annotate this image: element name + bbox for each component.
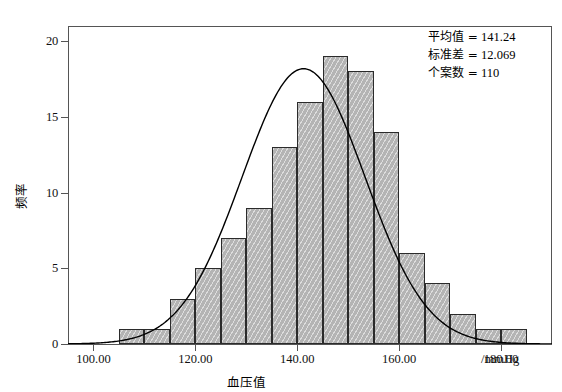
histogram-bar: [195, 268, 220, 344]
x-axis-unit-label: /mmHg: [481, 352, 519, 367]
x-tick-label: 120.00: [178, 352, 212, 367]
stat-mean: 平均值 = 141.24: [428, 28, 515, 46]
stat-mean-value: 141.24: [481, 30, 515, 44]
stat-n: 个案数 = 110: [428, 64, 515, 82]
histogram-bar: [450, 314, 475, 344]
x-tick: [297, 345, 298, 351]
stat-sd-label: 标准差 =: [428, 48, 478, 62]
y-axis-title: 频率: [11, 183, 30, 209]
y-tick-label: 20: [32, 34, 58, 49]
x-tick-label: 160.00: [382, 352, 416, 367]
y-tick: [61, 41, 68, 42]
histogram-bar: [425, 283, 450, 344]
y-tick: [61, 193, 68, 194]
histogram-bar: [170, 299, 195, 344]
stat-mean-label: 平均值 =: [428, 30, 478, 44]
y-tick-label: 5: [32, 261, 58, 276]
histogram-bar: [221, 238, 246, 344]
y-axis-title-wrap: 频率: [14, 0, 34, 392]
x-tick-label: 140.00: [280, 352, 314, 367]
histogram-bar: [246, 208, 271, 344]
histogram-bar: [119, 329, 144, 344]
x-axis-line: [68, 344, 552, 345]
stat-n-label: 个案数 =: [428, 66, 478, 80]
stat-sd: 标准差 = 12.069: [428, 46, 515, 64]
histogram-bar: [476, 329, 501, 344]
y-tick-label: 15: [32, 109, 58, 124]
x-tick: [93, 345, 94, 351]
x-tick-label: 100.00: [76, 352, 110, 367]
histogram-bar: [297, 102, 322, 344]
histogram-bar: [348, 71, 373, 344]
statistics-legend: 平均值 = 141.24 标准差 = 12.069 个案数 = 110: [428, 28, 515, 82]
histogram-bar: [323, 56, 348, 344]
histogram-bar: [399, 253, 424, 344]
stat-sd-value: 12.069: [481, 48, 515, 62]
x-tick: [399, 345, 400, 351]
histogram-bar: [501, 329, 526, 344]
y-tick-label: 10: [32, 185, 58, 200]
y-tick-label: 0: [32, 337, 58, 352]
histogram-bar: [374, 132, 399, 344]
x-tick: [195, 345, 196, 351]
histogram-bar: [272, 147, 297, 344]
stat-n-value: 110: [481, 66, 499, 80]
x-tick: [501, 345, 502, 351]
y-tick: [61, 268, 68, 269]
x-axis-title: 血压值: [0, 372, 562, 391]
histogram-bar: [144, 329, 169, 344]
y-tick: [61, 117, 68, 118]
y-tick: [61, 344, 68, 345]
x-axis-title-text: 血压值: [227, 372, 266, 391]
histogram-chart: 频率 05101520 100.00120.00140.00160.00180.…: [0, 0, 562, 392]
